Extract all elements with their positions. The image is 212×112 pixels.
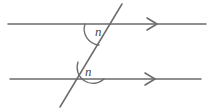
lower-angle-label: n: [85, 64, 92, 79]
upper-angle-label: n: [95, 24, 102, 39]
transversal-line: [60, 4, 122, 107]
geometry-diagram: n n: [0, 0, 212, 112]
geometry-canvas: n n: [0, 0, 212, 112]
